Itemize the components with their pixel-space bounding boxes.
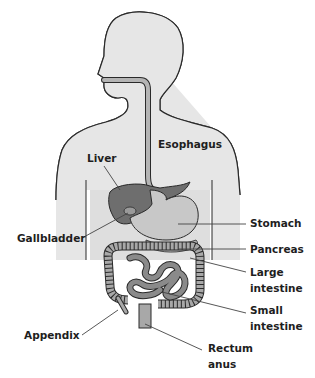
label-rectum-line2: anus [208,356,236,372]
label-gallbladder: Gallbladder [17,230,85,246]
label-large-intestine-line1: Large [250,264,284,280]
label-pancreas: Pancreas [250,241,304,257]
label-liver: Liver [87,150,116,166]
label-esophagus: Esophagus [158,136,222,152]
label-small-intestine-line1: Small [250,302,283,318]
label-appendix: Appendix [24,327,80,343]
label-small-intestine-line2: intestine [250,318,303,334]
label-stomach: Stomach [250,215,302,231]
label-large-intestine-line2: intestine [250,280,303,296]
label-rectum-line1: Rectum [208,340,253,356]
